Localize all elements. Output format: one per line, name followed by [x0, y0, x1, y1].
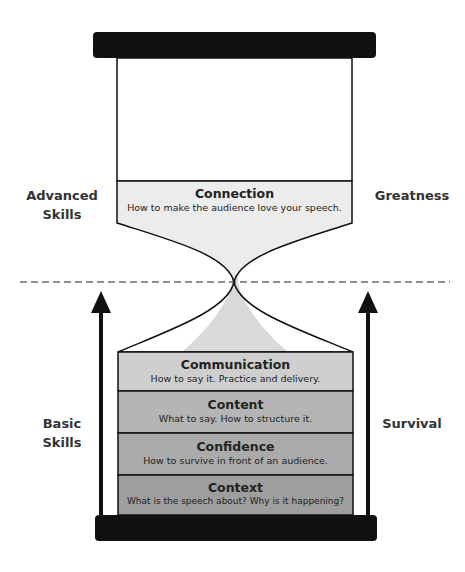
label-line: Skills	[22, 433, 102, 452]
bottom-bar	[95, 515, 377, 541]
right-arrow-head-icon	[358, 291, 378, 313]
layer-content: Content What to say. How to structure it…	[118, 397, 353, 425]
label-line: Skills	[22, 205, 102, 224]
label-line: Basic	[22, 414, 102, 433]
layer-description: How to say it. Practice and delivery.	[118, 372, 353, 385]
layer-description: How to make the audience love your speec…	[117, 201, 352, 214]
layer-title: Content	[118, 397, 353, 412]
layer-title: Context	[118, 480, 353, 495]
label-greatness: Greatness	[372, 186, 452, 205]
layer-communication: Communication How to say it. Practice an…	[118, 357, 353, 385]
label-advanced-skills: Advanced Skills	[22, 186, 102, 224]
layer-title: Confidence	[118, 439, 353, 454]
left-arrow-shaft	[99, 310, 103, 516]
layer-title: Connection	[117, 186, 352, 201]
layer-description: What is the speech about? Why is it happ…	[118, 495, 353, 508]
label-survival: Survival	[372, 414, 452, 433]
label-basic-skills: Basic Skills	[22, 414, 102, 452]
layer-title: Communication	[118, 357, 353, 372]
layer-context: Context What is the speech about? Why is…	[118, 480, 353, 508]
layer-description: What to say. How to structure it.	[118, 412, 353, 425]
layer-description: How to survive in front of an audience.	[118, 454, 353, 467]
layer-confidence: Confidence How to survive in front of an…	[118, 439, 353, 467]
label-line: Advanced	[22, 186, 102, 205]
right-arrow-shaft	[366, 310, 370, 516]
layer-connection: Connection How to make the audience love…	[117, 186, 352, 214]
top-glass-empty	[117, 58, 352, 181]
left-arrow-head-icon	[91, 291, 111, 313]
top-bar	[93, 32, 376, 58]
